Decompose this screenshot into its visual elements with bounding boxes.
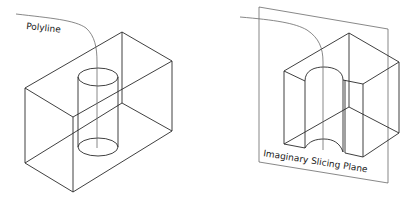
slicing-plane-label: Imaginary Slicing Plane — [263, 148, 369, 174]
sliced-box — [284, 33, 399, 157]
diagram-canvas: Polyline — [0, 0, 417, 201]
cylinder — [78, 68, 118, 156]
right-figure: Imaginary Slicing Plane — [240, 7, 399, 183]
polyline-path-sliced — [240, 17, 323, 150]
left-figure: Polyline — [16, 14, 172, 192]
box-wireframe — [25, 32, 172, 192]
polyline-label: Polyline — [26, 21, 62, 35]
